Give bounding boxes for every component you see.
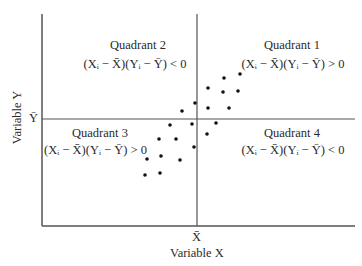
data-point bbox=[190, 122, 194, 126]
data-point bbox=[158, 171, 162, 175]
data-point bbox=[143, 173, 147, 177]
y-axis-label: Variable Y bbox=[10, 83, 25, 153]
data-point bbox=[205, 132, 209, 136]
data-point bbox=[236, 89, 240, 93]
data-point bbox=[174, 137, 178, 141]
quadrant-1-formula: (Xᵢ − X̄)(Yᵢ − Ȳ) > 0 bbox=[218, 57, 362, 72]
data-point bbox=[178, 158, 182, 162]
data-point bbox=[193, 101, 197, 105]
x-mean-label: X̄ bbox=[192, 230, 201, 245]
data-point bbox=[222, 76, 226, 80]
data-point bbox=[192, 145, 196, 149]
data-point bbox=[227, 106, 231, 110]
quadrant-1-title: Quadrant 1 bbox=[242, 38, 342, 53]
data-point bbox=[238, 72, 242, 76]
quadrant-2-formula: (Xᵢ − X̄)(Yᵢ − Ȳ) < 0 bbox=[60, 57, 210, 72]
data-point bbox=[159, 154, 163, 158]
data-point bbox=[168, 123, 172, 127]
y-mean-label: Ȳ bbox=[29, 111, 38, 126]
quadrant-4-title: Quadrant 4 bbox=[242, 126, 342, 141]
x-axis-label: Variable X bbox=[170, 246, 224, 261]
data-point bbox=[180, 109, 184, 113]
data-points bbox=[143, 72, 242, 177]
data-point bbox=[221, 90, 225, 94]
data-point bbox=[214, 121, 218, 125]
data-point bbox=[206, 86, 210, 90]
quadrant-3-title: Quadrant 3 bbox=[50, 126, 150, 141]
quadrant-2-title: Quadrant 2 bbox=[88, 38, 188, 53]
quadrant-3-formula: (Xᵢ − X̄)(Yᵢ − Ȳ) > 0 bbox=[44, 143, 149, 158]
quadrant-4-formula: (Xᵢ − X̄)(Yᵢ − Ȳ) < 0 bbox=[218, 143, 362, 158]
data-point bbox=[157, 137, 161, 141]
data-point bbox=[206, 106, 210, 110]
